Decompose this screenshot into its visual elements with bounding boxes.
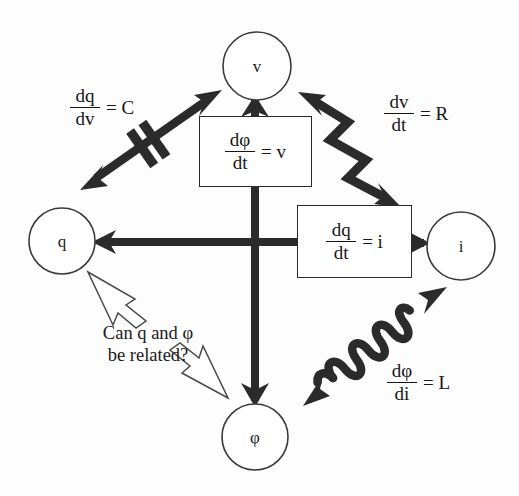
node-circle-i[interactable] [427,212,495,280]
fraction-equals: = C [105,98,134,118]
fraction-equals: = R [419,104,448,124]
formula-capacitance: dq dv = C [70,86,134,129]
fraction-stack: dφ di [387,361,417,404]
fraction-stack: dq dt [326,220,356,263]
fraction-stack: dq dv [70,86,100,129]
fraction-numerator: dφ [227,130,253,151]
fraction-denominator: di [392,383,413,404]
formula-dphi-dt: dφ dt = v [225,130,286,173]
relation-box-dphi-dt: dφ dt = v [199,116,312,187]
fraction-numerator: dq [73,86,98,107]
callout-question: Can q and φ be related? [103,323,193,367]
fraction-equals: = i [361,232,383,252]
fraction-numerator: dv [387,92,412,113]
resistor-zigzag [314,101,384,197]
formula-resistance: dv dt = R [384,92,448,135]
fraction-denominator: dt [389,114,410,135]
horizontal-shaft-left [108,238,300,246]
fraction-numerator: dq [329,220,354,241]
memristor-relations-diagram: v q i φ dφ dt = v dq dt = i dq dv [0,0,519,496]
node-circle-q[interactable] [29,208,95,274]
fraction-numerator: dφ [389,361,415,382]
node-circle-v[interactable] [223,32,291,100]
callout-line-1: Can q and φ [103,323,193,345]
node-circle-phi[interactable] [222,404,288,470]
connector-layer [0,0,519,496]
fraction-stack: dv dt [384,92,414,135]
formula-inductance: dφ di = L [387,361,450,404]
fraction-denominator: dt [230,152,251,173]
callout-arrow-to-q-icon [88,272,146,328]
callout-line-2: be related? [103,345,193,367]
fraction-equals: = v [260,142,286,162]
fraction-equals: = L [422,373,450,393]
inductor-arrowhead-upper [418,287,447,314]
fraction-denominator: dt [331,242,352,263]
fraction-denominator: dv [73,108,98,129]
formula-dq-dt: dq dt = i [326,220,383,263]
fraction-stack: dφ dt [225,130,255,173]
vertical-shaft-lower [251,187,259,401]
relation-box-dq-dt: dq dt = i [297,205,412,278]
